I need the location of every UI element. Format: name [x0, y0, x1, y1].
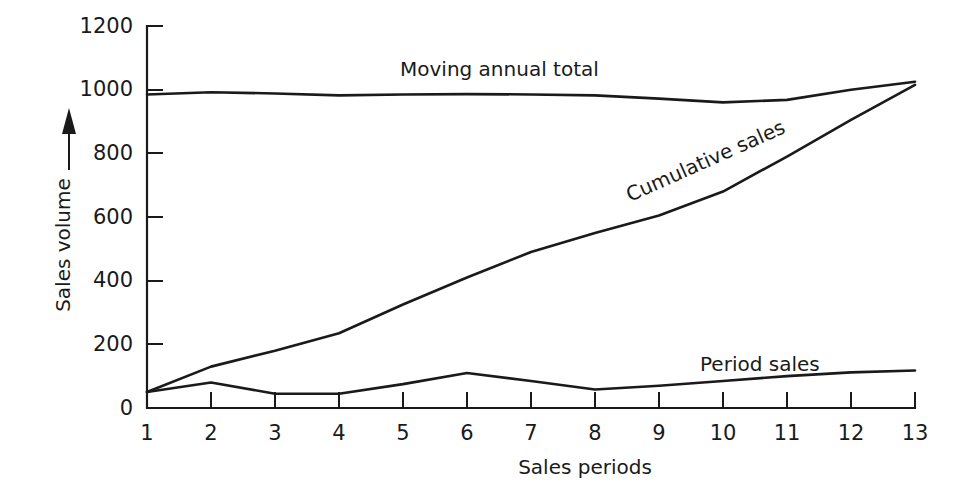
x-tick-label-2: 2 — [204, 421, 217, 445]
y-axis-ticks — [147, 26, 163, 344]
x-tick-label-4: 4 — [332, 421, 345, 445]
x-tick-label-10: 10 — [710, 421, 737, 445]
y-tick-label-0: 0 — [120, 396, 133, 420]
x-tick-label-9: 9 — [652, 421, 665, 445]
series-label-moving-annual-total: Moving annual total — [400, 57, 599, 81]
y-axis-title-group: Sales volume — [51, 108, 76, 312]
x-tick-label-5: 5 — [396, 421, 409, 445]
y-axis-arrow-icon — [62, 108, 76, 134]
series-label-period-sales: Period sales — [700, 352, 820, 376]
axis-lines — [147, 26, 915, 408]
x-tick-label-12: 12 — [838, 421, 865, 445]
x-tick-label-7: 7 — [524, 421, 537, 445]
x-tick-label-11: 11 — [774, 421, 801, 445]
x-tick-label-3: 3 — [268, 421, 281, 445]
x-axis-title: Sales periods — [518, 455, 652, 479]
y-tick-labels: 1200 1000 800 600 400 200 0 — [80, 14, 133, 420]
x-tick-label-1: 1 — [140, 421, 153, 445]
y-axis-title: Sales volume — [51, 178, 75, 312]
y-tick-label-600: 600 — [93, 205, 133, 229]
x-tick-labels: 1 2 3 4 5 6 7 8 9 10 11 12 13 — [140, 421, 928, 445]
x-tick-label-8: 8 — [588, 421, 601, 445]
y-tick-label-800: 800 — [93, 141, 133, 165]
y-tick-label-1000: 1000 — [80, 77, 133, 101]
y-tick-label-1200: 1200 — [80, 14, 133, 38]
y-tick-label-400: 400 — [93, 268, 133, 292]
chart-container: Sales volume 1200 1000 800 600 400 200 0 — [0, 0, 970, 496]
line-chart-svg: Sales volume 1200 1000 800 600 400 200 0 — [0, 0, 970, 496]
x-tick-label-13: 13 — [902, 421, 929, 445]
x-tick-label-6: 6 — [460, 421, 473, 445]
series-line-moving-annual-total — [147, 82, 915, 103]
y-tick-label-200: 200 — [93, 332, 133, 356]
x-axis-ticks — [147, 392, 915, 408]
series-label-cumulative-sales: Cumulative sales — [622, 115, 788, 207]
series-line-cumulative-sales — [147, 85, 915, 392]
